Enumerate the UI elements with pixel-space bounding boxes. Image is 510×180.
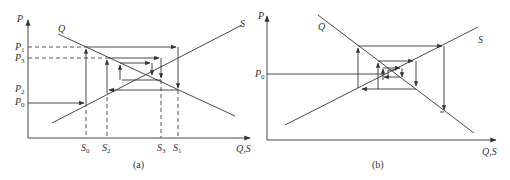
price-label-b-p0: P0 bbox=[254, 68, 265, 81]
cobweb-path-b bbox=[358, 46, 444, 112]
svg-text:S2: S2 bbox=[102, 142, 111, 155]
y-axis-label-b: P bbox=[257, 10, 264, 21]
x-axis-label-b: Q,S bbox=[482, 146, 497, 157]
svg-text:S3: S3 bbox=[157, 142, 166, 155]
svg-text:S1: S1 bbox=[173, 142, 182, 155]
quantity-labels-a: S0 S2 S3 S1 bbox=[81, 142, 182, 155]
caption-b: (b) bbox=[372, 159, 384, 171]
panel-b bbox=[267, 15, 496, 140]
supply-label-b: S bbox=[478, 34, 483, 45]
demand-label-b: Q bbox=[318, 21, 326, 32]
svg-text:P0: P0 bbox=[14, 96, 25, 109]
svg-text:P2: P2 bbox=[14, 83, 25, 96]
supply-curve-a bbox=[52, 25, 242, 123]
supply-curve-b bbox=[285, 27, 478, 125]
guide-lines-a bbox=[28, 47, 178, 138]
supply-label-a: S bbox=[240, 18, 245, 29]
cobweb-diagram: P Q S Q,S P1 P3 P2 P0 S0 S2 S3 S1 (a) bbox=[0, 0, 510, 180]
svg-text:S0: S0 bbox=[81, 142, 90, 155]
price-labels-a: P1 P3 P2 P0 bbox=[14, 41, 25, 109]
cobweb-path-a bbox=[28, 47, 178, 103]
panel-a bbox=[28, 20, 250, 138]
caption-a: (a) bbox=[133, 159, 144, 171]
x-axis-label-a: Q,S bbox=[236, 143, 251, 154]
demand-curve-a bbox=[58, 34, 235, 116]
y-axis-label-a: P bbox=[16, 13, 23, 24]
demand-label-a: Q bbox=[58, 23, 66, 34]
